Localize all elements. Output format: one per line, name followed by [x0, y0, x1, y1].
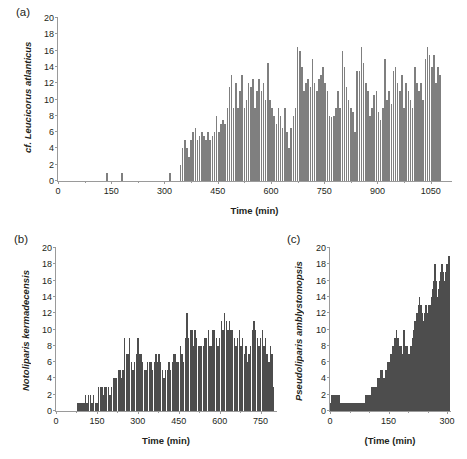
- y-axis-tick-mark: [53, 394, 56, 395]
- x-axis-tick-mark: [56, 411, 57, 414]
- panel-c-plot-area: 024681012141618200150300: [329, 248, 451, 412]
- bar: [106, 173, 108, 181]
- x-axis-tick-mark: [97, 411, 98, 414]
- y-axis-tick-label: 6: [49, 127, 58, 137]
- x-axis-minor-tick-mark: [350, 411, 351, 413]
- y-axis-tick-mark: [53, 377, 56, 378]
- y-axis-tick-label: 12: [44, 78, 58, 88]
- x-axis-minor-tick-mark: [408, 411, 409, 413]
- x-axis-minor-tick-mark: [158, 411, 159, 413]
- y-axis-tick-label: 2: [47, 390, 56, 400]
- x-axis-tick-mark: [220, 411, 221, 414]
- y-axis-tick-mark: [327, 394, 330, 395]
- y-axis-tick-mark: [53, 247, 56, 248]
- x-axis-minor-tick-mark: [240, 411, 241, 413]
- y-axis-tick-mark: [327, 247, 330, 248]
- panel-b-x-axis-label: Time (min): [55, 435, 277, 446]
- y-axis-tick-mark: [53, 263, 56, 264]
- y-axis-tick-mark: [327, 296, 330, 297]
- x-axis-tick-mark: [377, 181, 378, 184]
- x-axis-tick-mark: [179, 411, 180, 414]
- x-axis-minor-tick-mark: [117, 411, 118, 413]
- x-axis-minor-tick-mark: [76, 411, 77, 413]
- y-axis-tick-label: 18: [42, 259, 56, 269]
- x-axis-minor-tick-mark: [351, 181, 352, 183]
- y-axis-tick-mark: [327, 329, 330, 330]
- y-axis-tick-label: 16: [44, 46, 58, 56]
- x-axis-minor-tick-mark: [191, 181, 192, 183]
- y-axis-tick-mark: [55, 66, 58, 67]
- y-axis-tick-mark: [53, 361, 56, 362]
- panel-b-y-axis-label: Notoliparis kermadecensis: [20, 252, 31, 410]
- x-axis-minor-tick-mark: [428, 411, 429, 413]
- panel-b-plot-area: 024681012141618200150300450600750: [55, 248, 277, 412]
- panel-a: (a) cf. Leucicorus atlanticus 0246810121…: [0, 0, 467, 230]
- x-axis-tick-mark: [261, 411, 262, 414]
- bar: [439, 75, 441, 181]
- x-axis-minor-tick-mark: [138, 181, 139, 183]
- panel-b-tag: (b): [14, 233, 28, 245]
- y-axis-tick-label: 8: [321, 341, 330, 351]
- x-axis-tick-mark: [111, 181, 112, 184]
- panel-a-plot-area: 0246810121416182001503004506007509001050: [57, 18, 452, 182]
- y-axis-tick-label: 20: [42, 243, 56, 253]
- y-axis-tick-mark: [55, 33, 58, 34]
- y-axis-tick-label: 8: [49, 111, 58, 121]
- x-axis-tick-mark: [330, 411, 331, 414]
- x-axis-tick-mark: [218, 181, 219, 184]
- y-axis-tick-label: 4: [47, 373, 56, 383]
- x-axis-minor-tick-mark: [244, 181, 245, 183]
- y-axis-tick-label: 10: [42, 325, 56, 335]
- panel-a-y-axis-label: cf. Leucicorus atlanticus: [22, 20, 33, 175]
- panel-a-tag: (a): [16, 6, 30, 18]
- y-axis-tick-mark: [53, 280, 56, 281]
- bar: [273, 387, 274, 411]
- x-axis-minor-tick-mark: [199, 411, 200, 413]
- y-axis-tick-mark: [327, 312, 330, 313]
- y-axis-tick-label: 12: [42, 308, 56, 318]
- panel-a-x-axis-label: Time (min): [57, 205, 452, 216]
- y-axis-tick-mark: [53, 296, 56, 297]
- y-axis-tick-mark: [327, 280, 330, 281]
- y-axis-tick-mark: [55, 164, 58, 165]
- y-axis-tick-label: 20: [44, 13, 58, 23]
- y-axis-tick-label: 18: [44, 29, 58, 39]
- x-axis-minor-tick-mark: [298, 181, 299, 183]
- panel-c-x-axis-label: (Time (min): [319, 435, 461, 446]
- y-axis-tick-mark: [327, 377, 330, 378]
- bar-series: [58, 18, 452, 181]
- panel-c-tag: (c): [287, 233, 300, 245]
- y-axis-tick-mark: [55, 147, 58, 148]
- bar: [169, 173, 171, 181]
- y-axis-tick-mark: [327, 361, 330, 362]
- y-axis-tick-mark: [55, 115, 58, 116]
- y-axis-tick-label: 14: [44, 62, 58, 72]
- y-axis-tick-label: 6: [321, 357, 330, 367]
- y-axis-tick-mark: [55, 131, 58, 132]
- y-axis-tick-label: 10: [44, 95, 58, 105]
- y-axis-tick-label: 6: [47, 357, 56, 367]
- y-axis-tick-label: 18: [316, 259, 330, 269]
- x-axis-tick-mark: [58, 181, 59, 184]
- y-axis-tick-label: 4: [321, 373, 330, 383]
- y-axis-tick-label: 8: [47, 341, 56, 351]
- y-axis-tick-label: 16: [316, 276, 330, 286]
- y-axis-tick-mark: [327, 345, 330, 346]
- y-axis-tick-label: 12: [316, 308, 330, 318]
- panel-c: (c) Pseudoliparis amblystomopsis 0246810…: [285, 230, 467, 459]
- y-axis-tick-mark: [55, 82, 58, 83]
- y-axis-tick-mark: [53, 329, 56, 330]
- y-axis-tick-mark: [53, 312, 56, 313]
- x-axis-tick-mark: [447, 411, 448, 414]
- bar: [448, 256, 449, 411]
- x-axis-tick-mark: [324, 181, 325, 184]
- x-axis-tick-mark: [164, 181, 165, 184]
- y-axis-tick-label: 4: [49, 143, 58, 153]
- x-axis-minor-tick-mark: [369, 411, 370, 413]
- y-axis-tick-label: 10: [316, 325, 330, 335]
- y-axis-tick-label: 20: [316, 243, 330, 253]
- x-axis-minor-tick-mark: [404, 181, 405, 183]
- bar-series: [330, 248, 451, 411]
- y-axis-tick-mark: [53, 345, 56, 346]
- x-axis-tick-mark: [431, 181, 432, 184]
